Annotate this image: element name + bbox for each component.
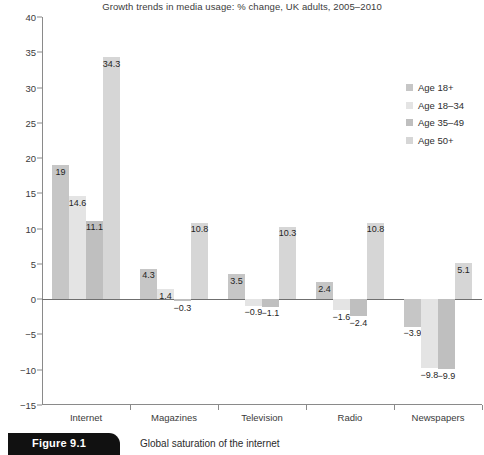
legend-item[interactable]: Age 18+ <box>406 78 484 96</box>
y-tick-label: 25 <box>25 117 36 128</box>
x-tick-mark <box>130 405 131 410</box>
x-category-label: Radio <box>338 412 363 423</box>
y-tick-label: 15 <box>25 188 36 199</box>
y-tick-mark <box>37 369 42 370</box>
bar[interactable] <box>52 165 69 299</box>
legend-swatch-icon <box>406 119 413 126</box>
bar[interactable] <box>404 299 421 327</box>
bar-group: −3.9−9.8−9.95.1 <box>404 17 472 405</box>
bar[interactable] <box>174 299 191 301</box>
y-tick-label: 0 <box>31 294 36 305</box>
chart-title: Growth trends in media usage: % change, … <box>0 1 484 12</box>
bar[interactable] <box>69 196 86 299</box>
y-tick-label: 35 <box>25 47 36 58</box>
legend-item[interactable]: Age 18–34 <box>406 96 484 114</box>
bar-value-label: −0.3 <box>167 303 198 313</box>
legend-label: Age 35–49 <box>418 114 464 132</box>
bar-value-label: 4.3 <box>133 270 164 280</box>
x-category-label: Television <box>241 412 283 423</box>
y-tick-mark <box>37 263 42 264</box>
x-category-label: Internet <box>70 412 102 423</box>
y-tick-label: 5 <box>31 258 36 269</box>
legend-swatch-icon <box>406 84 413 91</box>
y-tick-label: 10 <box>25 223 36 234</box>
bar-group: 2.4−1.6−2.410.8 <box>316 17 384 405</box>
y-tick-label: 30 <box>25 82 36 93</box>
legend-swatch-icon <box>406 102 413 109</box>
bar-group: 3.5−0.9−1.110.3 <box>228 17 296 405</box>
bar[interactable] <box>421 299 438 368</box>
legend-item[interactable]: Age 50+ <box>406 131 484 149</box>
y-tick-label: 40 <box>25 12 36 23</box>
x-tick-mark <box>394 405 395 410</box>
bar[interactable] <box>103 57 120 299</box>
y-tick-mark <box>37 228 42 229</box>
x-tick-mark <box>482 405 483 410</box>
y-tick-mark <box>37 87 42 88</box>
y-tick-label: −5 <box>25 329 36 340</box>
bar-value-label: 5.1 <box>448 265 479 275</box>
y-tick-mark <box>37 299 42 300</box>
legend-swatch-icon <box>406 137 413 144</box>
x-tick-mark <box>218 405 219 410</box>
bar-value-label: 19 <box>45 167 76 177</box>
legend-label: Age 50+ <box>418 132 454 150</box>
bar-value-label: 2.4 <box>309 284 340 294</box>
y-tick-mark <box>37 334 42 335</box>
legend-label: Age 18+ <box>418 79 454 97</box>
bar[interactable] <box>350 299 367 316</box>
bar[interactable] <box>438 299 455 369</box>
bar-value-label: 14.6 <box>62 198 93 208</box>
bar-value-label: 10.8 <box>184 224 215 234</box>
legend-label: Age 18–34 <box>418 97 464 115</box>
bar-value-label: −2.4 <box>343 318 374 328</box>
y-tick-mark <box>37 405 42 406</box>
x-category-label: Magazines <box>151 412 197 423</box>
bar[interactable] <box>86 221 103 299</box>
plot-area: 4035302520151050−5−10−15 1914.611.134.34… <box>42 17 482 405</box>
bar-value-label: 10.8 <box>360 224 391 234</box>
figure-number: Figure 9.1 <box>32 437 86 449</box>
bar-value-label: 10.3 <box>272 228 303 238</box>
y-tick-label: −15 <box>20 400 36 411</box>
figure-caption-text: Global saturation of the internet <box>140 438 280 449</box>
bar-group: 4.31.4−0.310.8 <box>140 17 208 405</box>
x-category-label: Newspapers <box>412 412 465 423</box>
bar[interactable] <box>333 299 350 310</box>
bar-value-label: −9.9 <box>431 371 462 381</box>
figure-caption: Figure 9.1 Global saturation of the inte… <box>0 433 484 455</box>
bar[interactable] <box>245 299 262 305</box>
y-tick-mark <box>37 17 42 18</box>
y-tick-label: 20 <box>25 153 36 164</box>
bar-value-label: 3.5 <box>221 276 252 286</box>
bar-value-label: −1.1 <box>255 308 286 318</box>
y-tick-mark <box>37 193 42 194</box>
chart-legend: Age 18+Age 18–34Age 35–49Age 50+ <box>406 78 484 148</box>
bar-value-label: 34.3 <box>96 59 127 69</box>
bar-group: 1914.611.134.3 <box>52 17 120 405</box>
y-tick-mark <box>37 158 42 159</box>
y-axis-line <box>42 17 43 405</box>
y-tick-mark <box>37 122 42 123</box>
y-tick-mark <box>37 52 42 53</box>
bar[interactable] <box>262 299 279 307</box>
y-tick-label: −10 <box>20 364 36 375</box>
x-tick-mark <box>306 405 307 410</box>
legend-item[interactable]: Age 35–49 <box>406 113 484 131</box>
